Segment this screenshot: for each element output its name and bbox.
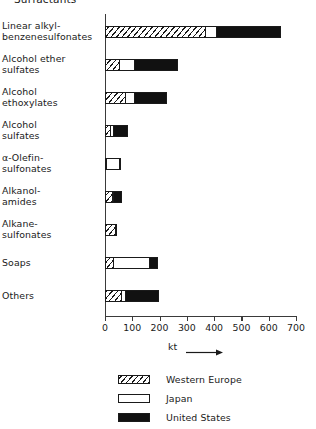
x-axis-tick-label: 0 (102, 322, 108, 333)
bar-segment-western-europe (105, 59, 120, 71)
x-axis-tick (160, 316, 161, 321)
category-label: Alkane- sulfonates (2, 218, 98, 241)
category-label: Soaps (2, 257, 98, 268)
plot-area: Linear alkyl- benzenesulfonatesAlcohol e… (0, 14, 316, 314)
legend-item: Western Europe (118, 370, 308, 389)
bar-segment-united-states (134, 59, 179, 71)
chart-legend: Western EuropeJapanUnited States (118, 370, 308, 427)
right-arrow-icon (186, 349, 224, 356)
x-axis-tick-label: 100 (123, 322, 141, 333)
legend-item: Japan (118, 389, 308, 408)
category-label: Alcohol sulfates (2, 119, 98, 142)
stacked-bar (105, 125, 128, 137)
hatched-swatch (118, 375, 150, 384)
bar-segment-western-europe (105, 290, 122, 302)
stacked-bar (105, 92, 167, 104)
bar-segment-united-states (149, 257, 158, 269)
x-axis-tick-label: 600 (260, 322, 278, 333)
x-axis-tick (241, 316, 242, 321)
bar-segment-united-states (119, 158, 121, 170)
chart-row: Alkane- sulfonates (0, 218, 316, 251)
chart-title: Surfactants (14, 0, 77, 5)
category-label: Linear alkyl- benzenesulfonates (2, 20, 98, 43)
bar-segment-japan (115, 224, 117, 236)
x-axis-tick (105, 316, 106, 321)
x-axis-unit-label: kt (168, 341, 177, 352)
bar-segment-united-states (125, 290, 159, 302)
chart-row: Linear alkyl- benzenesulfonates (0, 20, 316, 53)
chart-row: Others (0, 284, 316, 317)
chart-row: Alcohol sulfates (0, 119, 316, 152)
bar-segment-united-states (113, 125, 128, 137)
stacked-bar (105, 257, 158, 269)
black-swatch (118, 413, 150, 422)
white-swatch (118, 394, 150, 403)
legend-item: United States (118, 408, 308, 427)
legend-label: Western Europe (166, 374, 242, 385)
x-axis-tick (132, 316, 133, 321)
x-axis-tick (269, 316, 270, 321)
stacked-bar (105, 191, 122, 203)
bar-segment-western-europe (105, 26, 206, 38)
bar-segment-western-europe (105, 92, 127, 104)
stacked-bar (105, 26, 281, 38)
chart-row: α-Olefin- sulfonates (0, 152, 316, 185)
x-axis-tick (296, 316, 297, 321)
x-axis-tick-label: 400 (205, 322, 223, 333)
bar-segment-japan (113, 257, 150, 269)
stacked-bar (105, 290, 159, 302)
chart-row: Alcohol ethoxylates (0, 86, 316, 119)
legend-label: Japan (166, 393, 193, 404)
x-axis-tick-label: 200 (151, 322, 169, 333)
stacked-bar (105, 224, 117, 236)
category-label: Alcohol ether sulfates (2, 53, 98, 76)
x-axis-tick (214, 316, 215, 321)
stacked-bar (105, 158, 121, 170)
category-label: α-Olefin- sulfonates (2, 152, 98, 175)
x-axis-tick-label: 300 (178, 322, 196, 333)
bar-segment-united-states (134, 92, 168, 104)
x-axis-tick-label: 500 (232, 322, 250, 333)
stacked-bar (105, 59, 178, 71)
bar-segment-united-states (216, 26, 281, 38)
category-label: Others (2, 290, 98, 301)
bar-segment-united-states (113, 191, 122, 203)
x-axis-tick-label: 700 (287, 322, 305, 333)
category-label: Alkanol- amides (2, 185, 98, 208)
bar-segment-japan (119, 59, 135, 71)
category-label: Alcohol ethoxylates (2, 86, 98, 109)
chart-row: Alcohol ether sulfates (0, 53, 316, 86)
chart-row: Soaps (0, 251, 316, 284)
x-axis-tick (187, 316, 188, 321)
legend-label: United States (166, 412, 231, 423)
chart-row: Alkanol- amides (0, 185, 316, 218)
surfactants-bar-chart: Surfactants Linear alkyl- benzenesulfona… (0, 0, 316, 429)
